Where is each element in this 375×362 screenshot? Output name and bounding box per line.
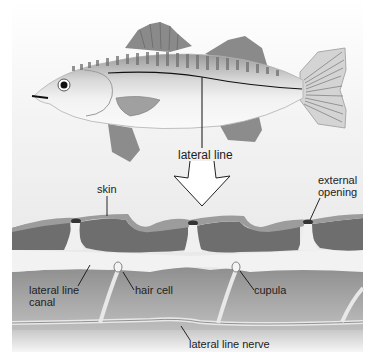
label-lateral-line-canal-line1: lateral line <box>29 284 79 296</box>
label-lateral-line: lateral line <box>178 149 233 161</box>
label-external-opening-line2: opening <box>318 186 357 198</box>
external-opening <box>303 220 313 225</box>
lateral-line-diagram: lateral line skin external opening later… <box>0 0 375 362</box>
cupula <box>232 262 240 272</box>
label-external-opening: external opening <box>318 174 357 198</box>
hair-cell <box>114 262 122 272</box>
label-hair-cell: hair cell <box>135 284 173 296</box>
label-lateral-line-canal-line2: canal <box>29 296 79 308</box>
label-lateral-line-canal: lateral line canal <box>29 284 79 308</box>
label-lateral-line-nerve: lateral line nerve <box>189 338 270 350</box>
label-external-opening-line1: external <box>318 174 357 186</box>
label-skin: skin <box>97 183 117 195</box>
external-opening <box>188 221 198 226</box>
external-opening <box>71 219 81 224</box>
label-cupula: cupula <box>254 284 286 296</box>
cross-section-illustration <box>12 214 363 352</box>
